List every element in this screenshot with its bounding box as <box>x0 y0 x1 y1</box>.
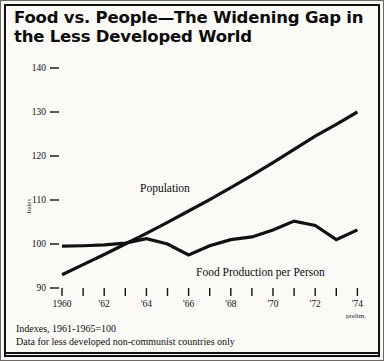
footnote-coverage: Data for less developed non-communist co… <box>16 335 235 348</box>
y-axis-title: Index <box>25 198 32 214</box>
x-axis-ticks <box>62 288 357 296</box>
chart-svg: 90100110120130140 1960'62'64'66'68'70'72… <box>0 0 384 361</box>
food-production-line <box>62 221 357 255</box>
chart-plot-area: 90100110120130140 1960'62'64'66'68'70'72… <box>0 0 384 361</box>
y-tick-label: 140 <box>32 63 47 73</box>
x-tick-label: '62 <box>99 299 110 309</box>
x-axis-tick-labels: 1960'62'64'66'68'70'72'74 <box>53 299 364 309</box>
x-tick-label: '64 <box>141 299 152 309</box>
y-axis-tick-labels: 90100110120130140 <box>32 63 47 293</box>
y-tick-label: 90 <box>37 283 47 293</box>
x-tick-label: 1960 <box>53 299 72 309</box>
chart-page: Food vs. People—The Widening Gap in the … <box>0 0 384 361</box>
x-tick-label: '72 <box>310 299 321 309</box>
food-series-label: Food Production per Person <box>196 266 325 279</box>
y-tick-label: 130 <box>32 107 47 117</box>
x-tick-label: '70 <box>267 299 278 309</box>
footnote-indexes: Indexes, 1961-1965=100 <box>16 322 116 335</box>
x-tick-label: '66 <box>183 299 194 309</box>
prelim-note: prelim. <box>346 312 366 320</box>
bottom-rule <box>6 352 378 354</box>
population-line <box>62 112 357 275</box>
y-tick-label: 120 <box>32 151 47 161</box>
y-tick-label: 110 <box>32 195 46 205</box>
population-series-label: Population <box>140 182 190 195</box>
x-tick-label: '68 <box>225 299 236 309</box>
y-tick-label: 100 <box>32 239 47 249</box>
x-tick-label: '74 <box>352 299 363 309</box>
y-axis-ticks <box>50 68 59 288</box>
